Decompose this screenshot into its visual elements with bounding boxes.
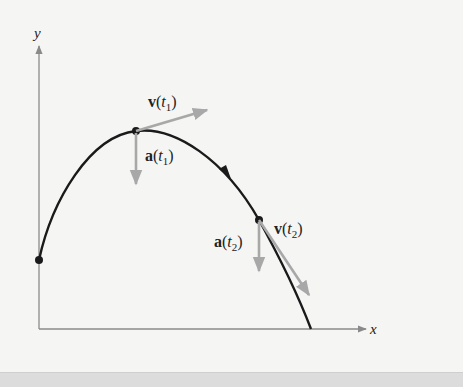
- trajectory-curve: [39, 131, 311, 329]
- y-axis-label: y: [32, 25, 41, 41]
- diagram-page: y x v(t1) a(t1): [0, 0, 463, 387]
- start-point: [35, 256, 43, 264]
- x-axis-label: x: [369, 321, 377, 337]
- label-a-t2: a(t2): [214, 233, 243, 253]
- label-v-t1: v(t1): [148, 93, 177, 113]
- label-a-t1: a(t1): [145, 147, 174, 167]
- velocity-vector-t1: [136, 110, 207, 131]
- projectile-diagram: y x v(t1) a(t1): [0, 0, 463, 387]
- direction-arrow-icon: [219, 165, 231, 179]
- axes: y x: [32, 25, 377, 337]
- page-edge-band: [0, 372, 463, 387]
- label-v-t2: v(t2): [274, 220, 303, 240]
